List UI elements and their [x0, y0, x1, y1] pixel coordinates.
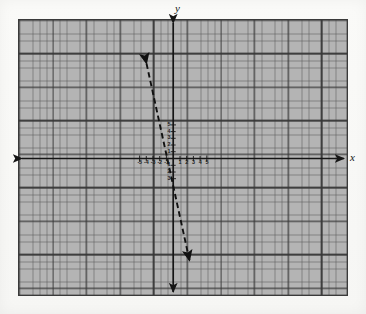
x-tick-label-neg4: -4 — [144, 160, 148, 165]
y-tick-label-neg2: 2 — [167, 169, 170, 174]
x-tick-label-3: 3 — [192, 160, 195, 165]
y-tick-label-4: 4 — [167, 129, 170, 134]
shaded-region — [19, 20, 348, 296]
x-axis-label: x — [350, 151, 355, 163]
x-tick-label-neg3: -3 — [151, 160, 155, 165]
y-axis-label: y — [175, 2, 180, 14]
x-tick-label-neg5: -5 — [137, 160, 141, 165]
graph-plot-area — [18, 19, 348, 296]
y-tick-label-1: 1 — [167, 149, 170, 154]
x-tick-label-2: 2 — [185, 160, 188, 165]
y-tick-label-3: 3 — [167, 136, 170, 141]
y-tick-label-neg1: 1 — [167, 163, 170, 168]
x-tick-label-4: 4 — [199, 160, 202, 165]
coordinate-plane-figure: -5 -4 -3 -2 -1 1 2 3 4 5 5 4 3 2 1 1 2 3… — [0, 0, 366, 314]
x-tick-label-5: 5 — [205, 160, 208, 165]
y-tick-label-neg3: 3 — [167, 176, 170, 181]
y-tick-label-5: 5 — [167, 122, 170, 127]
y-tick-label-2: 2 — [167, 142, 170, 147]
x-tick-label-neg2: -2 — [157, 160, 161, 165]
x-tick-label-1: 1 — [179, 160, 182, 165]
